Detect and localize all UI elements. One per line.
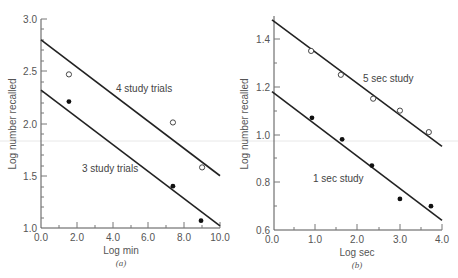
open-circle-marker-icon	[426, 130, 431, 135]
fit-line-5-sec-study	[272, 20, 442, 147]
x-axis-b: 0.0 1.0 2.0 3.0 4.0 Log sec (b)	[265, 224, 449, 270]
x-tick-label: 2.0	[70, 232, 84, 243]
panel-caption: (b)	[352, 260, 363, 270]
y-axis-b: 0.6 0.8 1.0 1.2 1.4 Log number recalled	[239, 16, 280, 236]
x-tick-label: 0.0	[265, 234, 279, 245]
series-label-5-sec-study: 5 sec study	[363, 73, 414, 84]
x-axis-title: Log sec	[339, 247, 374, 258]
y-tick-label: 1.4	[256, 34, 270, 45]
fit-line-3-study-trials	[41, 90, 220, 226]
y-tick-label: 3.0	[23, 14, 37, 25]
x-tick-label: 8.0	[177, 232, 191, 243]
y-axis-title: Log number recalled	[7, 78, 18, 169]
open-circle-marker-icon	[371, 96, 376, 101]
plot-area-b	[272, 20, 442, 221]
series-label-3-study-trials: 3 study trials	[82, 163, 138, 174]
y-axis-a: 1.0 1.5 2.0 2.5 3.0 Log number recalled	[7, 14, 47, 234]
open-circle-marker-icon	[200, 165, 205, 170]
y-tick-label: 1.0	[256, 130, 270, 141]
open-circle-marker-icon	[309, 48, 314, 53]
plot-area-a	[41, 40, 220, 226]
figure: 1.0 1.5 2.0 2.5 3.0 Log number recalled …	[0, 0, 458, 278]
x-axis-a: 0.0 2.0 4.0 6.0 8.0 10.0 Log min (a)	[34, 222, 230, 268]
x-tick-label: 4.0	[435, 234, 449, 245]
y-tick-label: 2.0	[23, 119, 37, 130]
x-tick-label: 3.0	[393, 234, 407, 245]
y-tick-label: 1.5	[23, 171, 37, 182]
filled-circle-marker-icon	[199, 218, 204, 223]
x-tick-label: 4.0	[106, 232, 120, 243]
open-circle-marker-icon	[170, 120, 175, 125]
series-label-1-sec-study: 1 sec study	[313, 173, 364, 184]
filled-circle-marker-icon	[429, 204, 434, 209]
y-axis-title: Log number recalled	[239, 78, 250, 169]
series-label-4-study-trials: 4 study trials	[116, 83, 172, 94]
panel-caption: (a)	[116, 258, 127, 268]
open-circle-marker-icon	[338, 72, 343, 77]
x-tick-label: 2.0	[350, 234, 364, 245]
filled-circle-marker-icon	[369, 163, 374, 168]
open-circle-marker-icon	[397, 108, 402, 113]
x-axis-title: Log min	[103, 245, 139, 256]
chart-panel-b: 0.6 0.8 1.0 1.2 1.4 Log number recalled …	[239, 16, 449, 270]
y-tick-label: 2.5	[23, 66, 37, 77]
filled-circle-marker-icon	[310, 115, 315, 120]
y-tick-label: 0.8	[256, 177, 270, 188]
x-tick-label: 0.0	[34, 232, 48, 243]
filled-circle-marker-icon	[340, 137, 345, 142]
filled-circle-marker-icon	[398, 197, 403, 202]
fit-line-1-sec-study	[272, 92, 442, 221]
filled-circle-marker-icon	[171, 184, 176, 189]
fit-line-4-study-trials	[41, 40, 220, 176]
open-circle-marker-icon	[66, 72, 71, 77]
x-tick-label: 1.0	[308, 234, 322, 245]
x-tick-label: 10.0	[210, 232, 230, 243]
x-tick-label: 6.0	[141, 232, 155, 243]
filled-circle-marker-icon	[67, 99, 72, 104]
y-tick-label: 1.2	[256, 82, 270, 93]
